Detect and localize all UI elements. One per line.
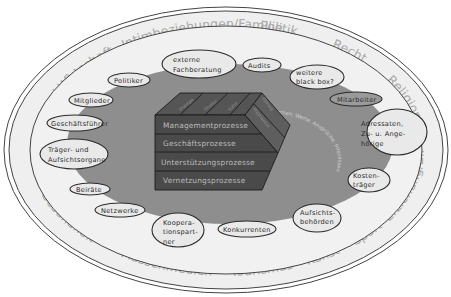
svg-text:tionspart-: tionspart- bbox=[163, 228, 198, 236]
svg-text:Kosten-: Kosten- bbox=[353, 172, 380, 180]
stakeholder-netzwerke[interactable]: Netzwerke bbox=[95, 203, 145, 217]
svg-text:träger: träger bbox=[353, 181, 375, 189]
svg-text:Mitglieder: Mitglieder bbox=[74, 97, 110, 105]
svg-text:Konkurrenten: Konkurrenten bbox=[223, 226, 271, 234]
svg-text:Fachberatung: Fachberatung bbox=[173, 66, 222, 74]
stakeholder-mitglieder[interactable]: Mitglieder bbox=[69, 93, 113, 107]
svg-text:behörden: behörden bbox=[300, 218, 334, 226]
stakeholder-audits[interactable]: Audits bbox=[243, 58, 281, 72]
stakeholder-traeger[interactable]: Träger- und Aufsichtsorgane bbox=[40, 139, 108, 169]
svg-text:Netzwerke: Netzwerke bbox=[101, 207, 139, 215]
stakeholder-mitarbeiter[interactable]: Mitarbeiter bbox=[330, 92, 382, 106]
svg-text:Aufsichts-: Aufsichts- bbox=[300, 209, 336, 217]
svg-text:black box?: black box? bbox=[296, 78, 334, 86]
svg-text:externe: externe bbox=[173, 56, 200, 64]
svg-text:Adressaten,: Adressaten, bbox=[361, 120, 403, 128]
process-management: Managementprozesse bbox=[163, 121, 248, 130]
svg-text:Mitarbeiter: Mitarbeiter bbox=[337, 96, 377, 104]
svg-text:Träger- und: Träger- und bbox=[47, 146, 89, 154]
svg-text:Politiker: Politiker bbox=[114, 77, 143, 85]
stakeholder-aufsichtsbehoerden[interactable]: Aufsichts- behörden bbox=[293, 204, 341, 232]
svg-text:Zu- u. Ange-: Zu- u. Ange- bbox=[361, 130, 406, 138]
svg-text:Geschäftsführer: Geschäftsführer bbox=[51, 120, 108, 128]
stakeholder-weitere-black-box[interactable]: weitere black box? bbox=[290, 65, 344, 89]
process-support: Unterstützungsprozesse bbox=[161, 158, 255, 167]
process-networking: Vernetzungsprozesse bbox=[163, 176, 246, 185]
svg-text:Koopera-: Koopera- bbox=[163, 219, 195, 227]
stakeholder-konkurrenten[interactable]: Konkurrenten bbox=[218, 221, 276, 237]
stakeholder-kostentraeger[interactable]: Kosten- träger bbox=[348, 168, 390, 192]
process-business: Geschäftsprozesse bbox=[163, 139, 236, 148]
svg-text:hörige: hörige bbox=[361, 140, 384, 148]
svg-text:weitere: weitere bbox=[296, 69, 323, 77]
svg-text:Beiräte: Beiräte bbox=[76, 186, 102, 194]
organization-environment-diagram: Natur und Technik Soziale und politische… bbox=[0, 0, 451, 297]
stakeholder-politiker[interactable]: Politiker bbox=[108, 73, 150, 87]
svg-text:ner: ner bbox=[163, 238, 175, 246]
stakeholder-externe-fachberatung[interactable]: externe Fachberatung bbox=[162, 50, 236, 78]
svg-text:Aufsichtsorgane: Aufsichtsorgane bbox=[48, 156, 106, 164]
stakeholder-kooperationspartner[interactable]: Koopera- tionspart- ner bbox=[152, 213, 204, 247]
stakeholder-beiraete[interactable]: Beiräte bbox=[70, 183, 110, 195]
svg-text:Audits: Audits bbox=[248, 62, 271, 70]
